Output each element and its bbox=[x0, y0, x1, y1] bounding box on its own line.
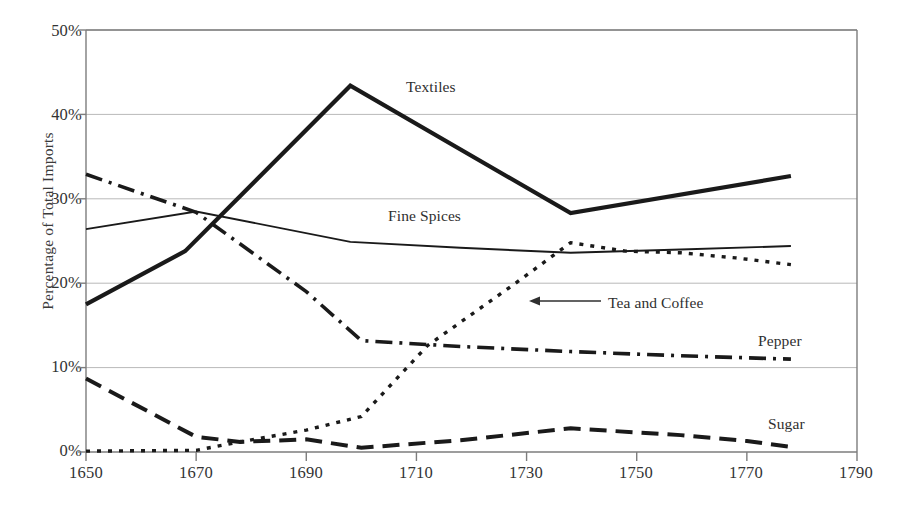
series-line-textiles bbox=[86, 86, 791, 305]
series-line-pepper bbox=[86, 174, 791, 359]
tea-and-coffee-leader-arrow bbox=[529, 297, 601, 306]
series-label-fine-spices: Fine Spices bbox=[388, 207, 461, 225]
series-line-sugar bbox=[86, 379, 791, 448]
series-label-tea-and-coffee: Tea and Coffee bbox=[608, 294, 704, 312]
series-label-pepper: Pepper bbox=[758, 332, 802, 350]
chart-figure: Percentage of Total Imports 50% 40% 30% … bbox=[0, 0, 905, 522]
series-line-tea-and-coffee bbox=[86, 243, 791, 451]
series-label-sugar: Sugar bbox=[768, 415, 805, 433]
series-label-textiles: Textiles bbox=[406, 78, 456, 96]
